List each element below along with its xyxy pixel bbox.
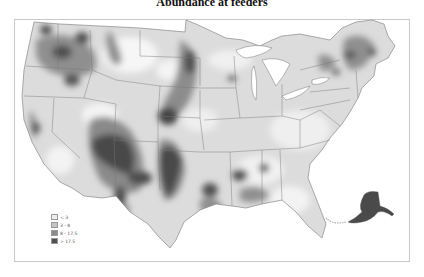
legend: < 3 3 - 8 8 - 17.5 > 17.5 (51, 213, 77, 245)
legend-item-8-17-5: 8 - 17.5 (51, 229, 77, 237)
alaska-inset (326, 191, 394, 223)
legend-swatch (51, 238, 58, 244)
legend-label: > 17.5 (60, 239, 75, 244)
legend-label: < 3 (60, 215, 68, 220)
legend-item-3-8: 3 - 8 (51, 221, 77, 229)
legend-swatch (51, 230, 58, 236)
legend-label: 3 - 8 (60, 223, 70, 228)
legend-label: 8 - 17.5 (60, 231, 77, 236)
legend-item-lt3: < 3 (51, 213, 77, 221)
legend-swatch (51, 222, 58, 228)
legend-item-gt17-5: > 17.5 (51, 237, 77, 245)
legend-swatch (51, 214, 58, 220)
